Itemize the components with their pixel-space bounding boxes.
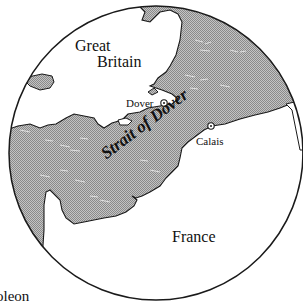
label-britain: Britain: [97, 54, 141, 70]
caption-fragment: oleon: [0, 289, 29, 304]
calais-marker: [208, 123, 214, 129]
label-calais: Calais: [196, 136, 224, 147]
label-france: France: [172, 229, 216, 245]
map-graphic: [0, 0, 303, 308]
label-great: Great: [75, 38, 111, 54]
